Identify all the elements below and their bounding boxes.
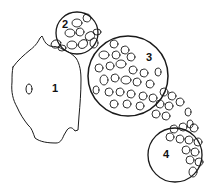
region-4-circle: [148, 128, 202, 182]
region-1-nucleus: [26, 84, 32, 94]
trail-ovals: [152, 88, 193, 128]
label-region-4: 4: [163, 148, 170, 160]
diagram-canvas: 1 2 3 4: [0, 0, 216, 185]
label-region-1: 1: [52, 82, 58, 94]
cluster-diagram: 1 2 3 4: [0, 0, 216, 185]
label-region-3: 3: [146, 51, 152, 63]
label-region-2: 2: [62, 18, 68, 30]
region-1-outline: [12, 36, 81, 143]
